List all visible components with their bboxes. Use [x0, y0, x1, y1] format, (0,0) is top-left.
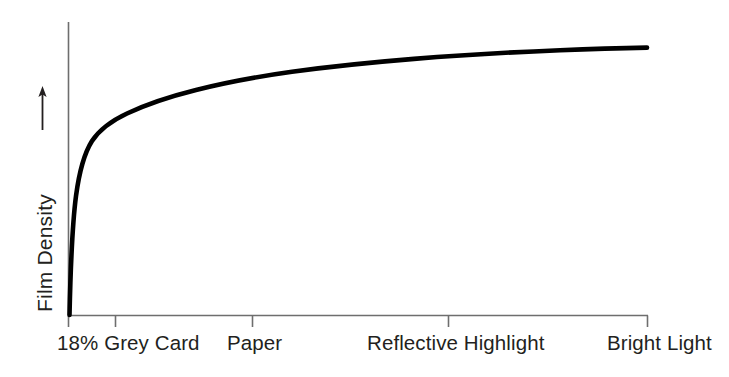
- up-arrow-icon: [38, 86, 46, 130]
- film-density-figure: Film Density 18% Grey Card Paper Reflect…: [0, 0, 729, 377]
- film-density-curve: [70, 48, 648, 315]
- y-axis-label: Film Density: [33, 194, 57, 312]
- x-label-bright-light: Bright Light: [607, 331, 712, 355]
- x-label-reflective-highlight: Reflective Highlight: [367, 331, 544, 355]
- x-label-paper: Paper: [227, 331, 282, 355]
- plot-area: [0, 0, 729, 377]
- x-label-18-grey-card: 18% Grey Card: [57, 331, 200, 355]
